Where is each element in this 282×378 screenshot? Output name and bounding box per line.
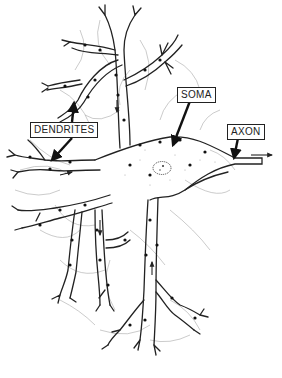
label-dendrites-text: DENDRITES (34, 124, 94, 135)
nucleus (153, 162, 171, 175)
label-axon: AXON (227, 124, 265, 140)
neuron-outline (7, 5, 262, 355)
dendrites-pointer-up (72, 103, 74, 122)
dendrites-pointer-down (52, 138, 72, 160)
label-soma-text: SOMA (181, 89, 212, 100)
label-soma: SOMA (177, 87, 216, 103)
label-axon-text: AXON (231, 126, 261, 137)
label-dendrites: DENDRITES (30, 122, 98, 138)
axon-pointer (234, 138, 238, 158)
neuron-diagram (0, 0, 282, 378)
